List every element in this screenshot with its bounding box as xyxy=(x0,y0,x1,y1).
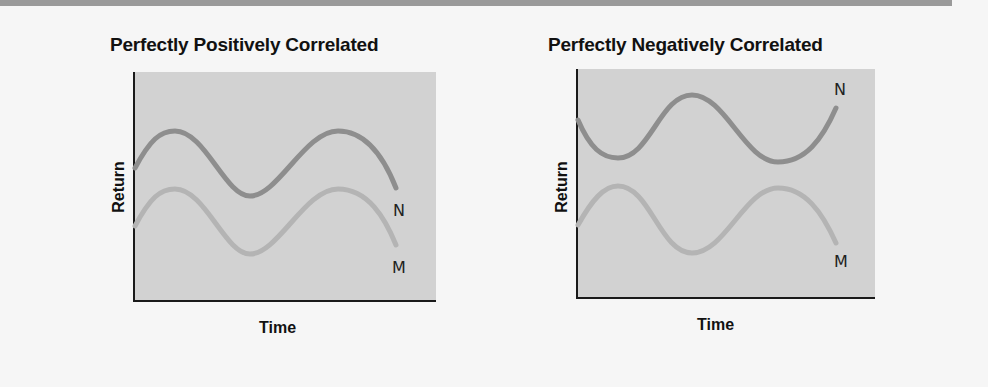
right-line-n xyxy=(578,95,836,162)
right-line-m xyxy=(578,186,836,253)
chart-curves xyxy=(0,0,988,387)
left-line-n xyxy=(135,131,396,196)
left-line-m xyxy=(135,189,396,254)
